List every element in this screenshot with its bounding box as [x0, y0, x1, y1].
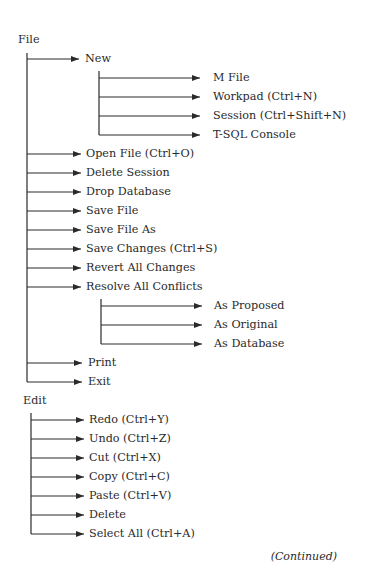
menu-item-save-file: Save File [86, 204, 138, 218]
menu-item-save-changes: Save Changes (Ctrl+S) [86, 242, 217, 256]
menu-item-undo: Undo (Ctrl+Z) [89, 432, 171, 446]
menu-item-save-file-as: Save File As [86, 223, 156, 237]
menu-item-cut: Cut (Ctrl+X) [89, 451, 161, 465]
submenu-item-as-proposed: As Proposed [214, 299, 284, 313]
menu-item-redo: Redo (Ctrl+Y) [89, 413, 169, 427]
menu-item-paste: Paste (Ctrl+V) [89, 489, 171, 503]
continued-note: (Continued) [271, 550, 337, 564]
menu-item-resolve-all-conflicts: Resolve All Conflicts [86, 280, 202, 294]
menu-item-print: Print [88, 356, 116, 370]
menu-item-drop-database: Drop Database [86, 185, 171, 199]
submenu-item-as-database: As Database [214, 337, 284, 351]
menu-item-copy: Copy (Ctrl+C) [89, 470, 170, 484]
submenu-item-m-file: M File [213, 71, 250, 85]
submenu-item-session: Session (Ctrl+Shift+N) [213, 109, 346, 123]
submenu-item-tsql-console: T-SQL Console [213, 128, 296, 142]
menu-item-new: New [85, 52, 111, 66]
menu-item-open-file: Open File (Ctrl+O) [86, 147, 194, 161]
submenu-item-as-original: As Original [214, 318, 278, 332]
menu-item-select-all: Select All (Ctrl+A) [89, 527, 195, 541]
menu-edit-heading: Edit [23, 394, 46, 408]
menu-tree-diagram: File New M File Workpad (Ctrl+N) Session… [0, 0, 367, 587]
submenu-item-workpad: Workpad (Ctrl+N) [213, 90, 317, 104]
menu-item-exit: Exit [88, 375, 111, 389]
menu-item-revert-all-changes: Revert All Changes [86, 261, 195, 275]
menu-item-delete: Delete [89, 508, 126, 522]
menu-item-delete-session: Delete Session [86, 166, 170, 180]
menu-file-heading: File [18, 33, 40, 47]
